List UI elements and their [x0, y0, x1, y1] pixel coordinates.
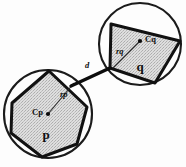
label-polygon-q: q	[136, 59, 144, 74]
shape-group-q: Cq rq q	[99, 3, 181, 85]
figure-root: Cp rp p Cq rq q d	[0, 0, 186, 167]
center-point-p	[46, 112, 50, 116]
label-distance-d: d	[85, 60, 90, 70]
label-radius-q: rq	[116, 46, 124, 56]
label-center-q: Cq	[145, 34, 156, 44]
bounding-circle-diagram: Cp rp p Cq rq q d	[0, 0, 186, 167]
distance-line-d	[71, 68, 110, 86]
label-center-p: Cp	[32, 107, 43, 117]
label-radius-p: rp	[60, 89, 68, 99]
label-polygon-p: p	[42, 127, 49, 142]
center-point-q	[138, 39, 142, 43]
